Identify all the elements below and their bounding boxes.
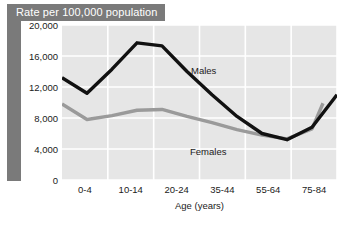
y-axis-tick-labels: 04,0008,00012,00016,00020,000 (0, 25, 58, 180)
y-tick-label: 0 (3, 175, 58, 186)
x-tick-label: 0-4 (78, 184, 92, 195)
plot-area: Males Females (62, 25, 337, 180)
series-label-females: Females (190, 146, 226, 157)
y-tick-label: 16,000 (3, 51, 58, 62)
y-tick-label: 8,000 (3, 113, 58, 124)
x-axis-title: Age (years) (62, 200, 337, 211)
chart-title: Rate per 100,000 population (7, 4, 165, 21)
x-tick-label: 10-14 (119, 184, 143, 195)
chart-figure: Rate per 100,000 population 04,0008,0001… (0, 0, 345, 231)
y-tick-label: 12,000 (3, 82, 58, 93)
x-tick-label: 75-84 (302, 184, 326, 195)
x-tick-label: 20-24 (164, 184, 188, 195)
series-label-males: Males (191, 65, 216, 76)
x-tick-label: 55-64 (256, 184, 280, 195)
x-axis-tick-labels: 0-410-1420-2435-4455-6475-84 (62, 184, 337, 198)
series-line-females (62, 103, 323, 139)
x-tick-label: 35-44 (210, 184, 234, 195)
y-tick-label: 4,000 (3, 144, 58, 155)
y-tick-label: 20,000 (3, 20, 58, 31)
